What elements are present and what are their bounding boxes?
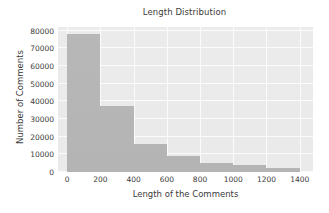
histogram-bar [167, 156, 200, 172]
gridline-horizontal [58, 30, 313, 31]
y-tick-label: 0 [49, 168, 54, 177]
y-axis-label: Number of Comments [15, 25, 25, 170]
x-tick-label: 1200 [257, 175, 276, 184]
x-tick-label: 800 [193, 175, 207, 184]
chart-title: Length Distribution [0, 7, 329, 17]
histogram-bar [266, 168, 299, 172]
x-tick-label: 200 [93, 175, 107, 184]
y-tick-label: 10000 [30, 150, 54, 159]
y-tick-label: 30000 [30, 114, 54, 123]
x-axis-label: Length of the Comments [58, 189, 313, 199]
x-tick-label: 400 [126, 175, 140, 184]
gridline-vertical [266, 27, 267, 172]
x-tick-label: 600 [160, 175, 174, 184]
x-axis-tick-labels: 0200400600800100012001400 [58, 175, 313, 187]
plot-area [58, 27, 313, 172]
x-tick-label: 1000 [224, 175, 243, 184]
y-tick-label: 80000 [30, 26, 54, 35]
x-tick-label: 1400 [290, 175, 309, 184]
histogram-bar [134, 144, 167, 172]
histogram-bar [100, 106, 133, 172]
gridline-vertical [300, 27, 301, 172]
y-tick-label: 40000 [30, 97, 54, 106]
gridline-vertical [233, 27, 234, 172]
gridline-vertical [200, 27, 201, 172]
y-axis-tick-labels: 0100002000030000400005000060000700008000… [0, 27, 54, 172]
histogram-bar [200, 163, 233, 172]
y-tick-label: 50000 [30, 79, 54, 88]
histogram-bar [233, 165, 266, 172]
y-tick-label: 20000 [30, 132, 54, 141]
gridline-vertical [167, 27, 168, 172]
y-tick-label: 60000 [30, 61, 54, 70]
histogram-figure: Length Distribution 01000020000300004000… [0, 0, 329, 213]
histogram-bar [67, 34, 100, 172]
x-tick-label: 0 [65, 175, 70, 184]
y-tick-label: 70000 [30, 44, 54, 53]
